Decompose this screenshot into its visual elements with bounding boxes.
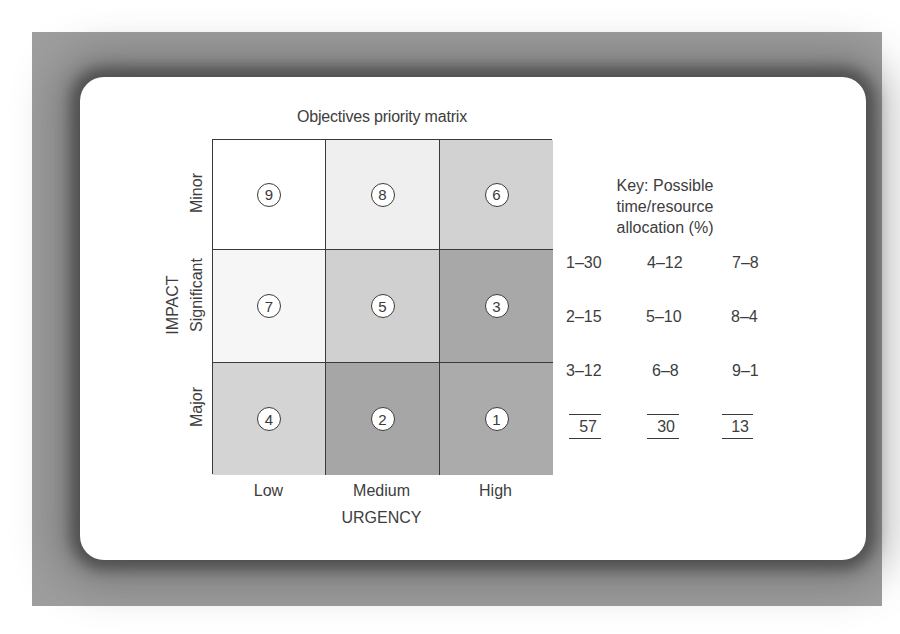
matrix-cell: 3 <box>440 250 553 363</box>
key-entry: 8–4 <box>731 308 758 326</box>
key-entry: 5–10 <box>646 308 682 326</box>
priority-badge: 3 <box>485 294 509 318</box>
priority-matrix: 9 8 6 7 5 3 4 2 1 <box>212 139 552 474</box>
priority-badge: 1 <box>485 407 509 431</box>
key-entry: 6–8 <box>652 362 679 380</box>
y-axis-label: IMPACT <box>164 245 182 365</box>
matrix-cell: 6 <box>440 140 553 250</box>
key-entry: 4–12 <box>647 254 683 272</box>
key-entry: 3–12 <box>566 362 602 380</box>
key-entry: 7–8 <box>732 254 759 272</box>
matrix-cell: 5 <box>326 250 440 363</box>
matrix-cell: 7 <box>213 250 326 363</box>
row-label-major: Major <box>188 347 206 467</box>
key-entry: 9–1 <box>732 362 759 380</box>
key-entry: 2–15 <box>566 308 602 326</box>
priority-badge: 2 <box>371 407 395 431</box>
column-total: 30 <box>647 414 679 439</box>
key-entry: 1–30 <box>566 254 602 272</box>
col-label-low: Low <box>212 482 325 500</box>
col-label-medium: Medium <box>325 482 438 500</box>
matrix-cell: 8 <box>326 140 440 250</box>
matrix-cell: 9 <box>213 140 326 250</box>
diagram-title: Objectives priority matrix <box>212 108 552 126</box>
key-title: Key: Possible time/resource allocation (… <box>590 175 740 238</box>
matrix-cell: 4 <box>213 363 326 475</box>
column-total: 13 <box>722 414 753 439</box>
col-label-high: High <box>439 482 552 500</box>
priority-badge: 9 <box>257 183 281 207</box>
priority-badge: 5 <box>371 294 395 318</box>
matrix-cell: 1 <box>440 363 553 475</box>
priority-badge: 8 <box>371 183 395 207</box>
row-label-significant: Significant <box>188 235 206 355</box>
priority-badge: 4 <box>257 407 281 431</box>
priority-badge: 6 <box>485 183 509 207</box>
x-axis-label: URGENCY <box>325 509 438 527</box>
key-title-line: Key: Possible <box>590 175 740 196</box>
key-title-line: allocation (%) <box>590 217 740 238</box>
matrix-cell: 2 <box>326 363 440 475</box>
priority-badge: 7 <box>257 294 281 318</box>
column-total: 57 <box>569 414 601 439</box>
key-title-line: time/resource <box>590 196 740 217</box>
